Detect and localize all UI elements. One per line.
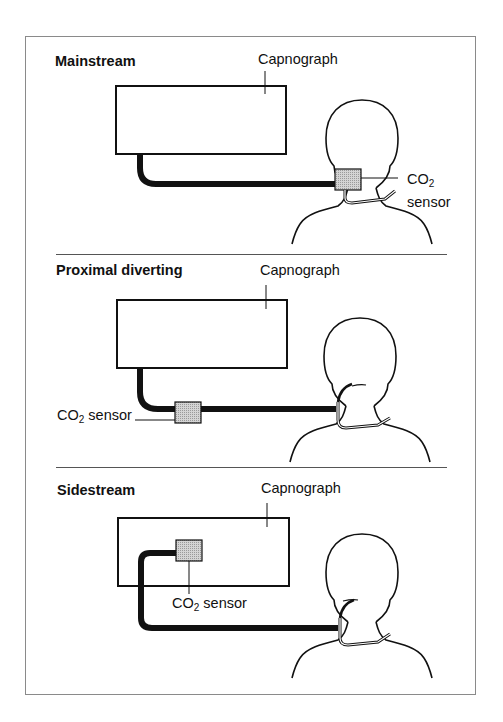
sidestream-diagram — [118, 503, 432, 678]
co2-sensor-box — [175, 402, 201, 423]
diagram-graphics — [0, 0, 503, 722]
capnograph-box — [116, 86, 286, 154]
capnograph-box — [117, 300, 287, 368]
co2-sensor-box — [335, 169, 361, 190]
co2-sensor-box — [176, 540, 202, 561]
mainstream-diagram — [116, 71, 432, 244]
proximal-diverting-diagram — [117, 285, 430, 462]
